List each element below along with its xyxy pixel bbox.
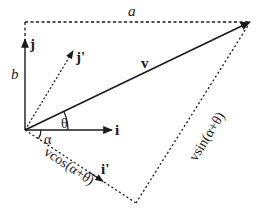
label-vsin-text: vsin(α+θ)	[186, 109, 229, 164]
label-j-prime: j'	[75, 49, 85, 65]
label-b: b	[11, 66, 19, 82]
label-i: i	[115, 122, 119, 138]
alpha-angle-arc	[38, 130, 41, 139]
vsin-dotted-side	[136, 24, 249, 203]
label-vsin: vsin(α+θ)	[186, 109, 229, 164]
label-v: v	[141, 55, 149, 71]
label-a: a	[128, 3, 136, 19]
label-vcos-text: vcos(α+θ)	[41, 144, 98, 189]
label-vcos: vcos(α+θ)	[41, 144, 98, 189]
label-j: j	[29, 36, 35, 52]
vector-rotation-diagram: a b j j' i i' v θ α vcos(α+θ) vsin(α+θ)	[0, 0, 260, 217]
label-i-prime: i'	[101, 161, 109, 177]
label-theta: θ	[61, 116, 68, 131]
